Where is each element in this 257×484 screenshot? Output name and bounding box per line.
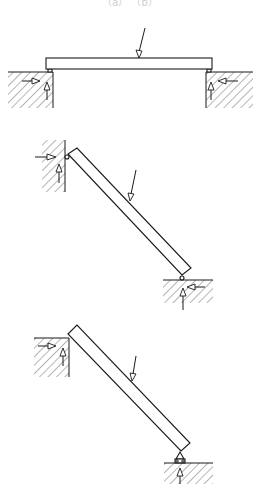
inclined-beam	[68, 325, 190, 451]
wall	[42, 140, 65, 192]
diagram-canvas: （a） （b）	[0, 0, 257, 484]
free-body-diagrams	[0, 0, 257, 484]
panel-1	[8, 28, 253, 108]
load-arrow-icon	[128, 170, 136, 201]
load-arrow-icon	[130, 356, 136, 381]
inclined-beam	[68, 148, 191, 275]
ground-contact-pin	[180, 276, 184, 280]
panel-3	[34, 325, 213, 484]
horizontal-beam	[46, 58, 212, 69]
ground	[164, 463, 213, 484]
load-arrow-icon	[136, 28, 145, 58]
wall-contact-pin	[65, 155, 69, 159]
pin-support	[175, 452, 185, 463]
ground	[163, 280, 213, 303]
panel-2	[35, 140, 213, 310]
